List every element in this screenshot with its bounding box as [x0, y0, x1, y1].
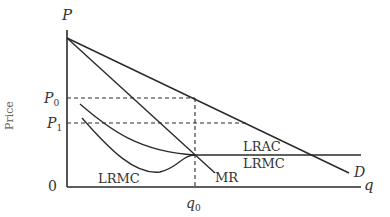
lrmc-curve	[82, 118, 195, 172]
diagram-canvas	[0, 0, 390, 217]
p0-subscript: 0	[53, 98, 59, 108]
p1-subscript: 1	[56, 123, 62, 133]
y-axis-symbol: P	[62, 8, 72, 23]
lrac-curve	[80, 104, 195, 155]
x-axis-symbol: q	[364, 178, 374, 193]
demand-label: D	[354, 165, 365, 179]
p0-symbol: P	[44, 90, 53, 106]
p1-symbol: P	[47, 115, 56, 131]
mr-label: MR	[215, 171, 238, 184]
y-axis-title: Price	[3, 101, 16, 130]
q0-subscript: 0	[195, 203, 201, 213]
q0-symbol: q	[186, 195, 195, 211]
p0-label: P0	[44, 91, 59, 108]
p1-label: P1	[47, 116, 62, 133]
lrac-label: LRAC	[243, 140, 281, 153]
q0-label: q0	[186, 196, 201, 213]
origin-label: 0	[48, 179, 57, 193]
marginal-revenue-curve	[67, 38, 215, 173]
lrmc-flat-label: LRMC	[243, 157, 285, 170]
lrmc-curve-label: LRMC	[98, 172, 140, 185]
demand-curve	[67, 38, 349, 173]
